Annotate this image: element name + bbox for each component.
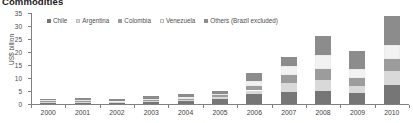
bar-segment <box>109 101 125 102</box>
bar-group[interactable] <box>281 57 297 104</box>
x-tick-mark <box>237 105 238 108</box>
bar-segment <box>349 69 365 78</box>
bar-segment <box>246 91 262 94</box>
x-tick-label: 2005 <box>206 109 234 117</box>
x-tick-mark-origin <box>31 105 32 108</box>
x-tick-mark <box>65 105 66 108</box>
bar-segment <box>109 99 125 101</box>
y-tick-label: 5 <box>0 88 22 95</box>
bar-segment <box>40 103 56 104</box>
bar-segment <box>212 97 228 99</box>
chart-title: Commodities <box>2 0 63 5</box>
bar-segment <box>178 94 194 98</box>
x-tick-label: 2008 <box>309 109 337 117</box>
y-tick-label: 20 <box>0 49 22 56</box>
bar-segment <box>384 85 400 104</box>
bar-segment <box>315 91 331 104</box>
bar-segment <box>384 45 400 59</box>
bar-segment <box>40 102 56 103</box>
bar-segment <box>143 96 159 99</box>
x-tick-mark <box>134 105 135 108</box>
bar-segment <box>281 66 297 74</box>
x-tick-mark <box>100 105 101 108</box>
x-tick-mark <box>409 105 410 108</box>
bars-layer <box>31 13 409 104</box>
x-axis-line <box>31 104 409 105</box>
bar-group[interactable] <box>349 51 365 104</box>
bar-segment <box>281 75 297 83</box>
bar-group[interactable] <box>40 99 56 104</box>
bar-segment <box>109 101 125 102</box>
bar-segment <box>212 94 228 95</box>
bar-segment <box>281 83 297 92</box>
x-tick-mark <box>168 105 169 108</box>
bar-segment <box>246 73 262 82</box>
bar-segment <box>349 86 365 93</box>
x-tick-label: 2003 <box>137 109 165 117</box>
bar-segment <box>109 103 125 104</box>
bar-segment <box>281 92 297 104</box>
bar-segment <box>75 102 91 103</box>
bar-group[interactable] <box>384 16 400 104</box>
x-tick-label: 2007 <box>275 109 303 117</box>
bar-segment <box>246 94 262 104</box>
bar-segment <box>281 57 297 66</box>
bar-segment <box>246 81 262 86</box>
x-tick-mark <box>272 105 273 108</box>
y-tick-label: 25 <box>0 36 22 43</box>
y-tick-label: 15 <box>0 62 22 69</box>
bar-segment <box>246 86 262 90</box>
bar-segment <box>384 71 400 86</box>
bar-segment <box>40 101 56 102</box>
bar-segment <box>315 36 331 54</box>
bar-segment <box>40 99 56 101</box>
bar-segment <box>178 101 194 104</box>
bar-segment <box>315 69 331 80</box>
x-tick-label: 2010 <box>378 109 406 117</box>
bar-segment <box>349 51 365 70</box>
x-tick-mark <box>306 105 307 108</box>
bar-segment <box>178 99 194 101</box>
bar-segment <box>212 99 228 104</box>
bar-segment <box>212 91 228 94</box>
bar-segment <box>384 16 400 45</box>
bar-segment <box>109 102 125 103</box>
x-tick-label: 2000 <box>34 109 62 117</box>
bar-group[interactable] <box>75 98 91 105</box>
x-tick-label: 2004 <box>172 109 200 117</box>
bar-segment <box>349 78 365 86</box>
y-tick-label: 35 <box>0 10 22 17</box>
bar-group[interactable] <box>246 73 262 104</box>
bar-segment <box>75 100 91 101</box>
x-tick-label: 2002 <box>103 109 131 117</box>
x-tick-mark <box>375 105 376 108</box>
bar-segment <box>178 100 194 101</box>
bar-group[interactable] <box>315 36 331 104</box>
bar-segment <box>75 98 91 100</box>
bar-segment <box>384 59 400 71</box>
bar-segment <box>143 100 159 101</box>
bar-segment <box>349 93 365 104</box>
bar-segment <box>75 103 91 104</box>
x-tick-label: 2001 <box>69 109 97 117</box>
bar-segment <box>75 101 91 102</box>
x-tick-mark <box>203 105 204 108</box>
bar-segment <box>212 95 228 97</box>
bar-segment <box>315 55 331 69</box>
x-tick-mark <box>340 105 341 108</box>
bar-segment <box>178 97 194 98</box>
bar-group[interactable] <box>143 96 159 104</box>
bar-group[interactable] <box>109 99 125 104</box>
y-tick-label: 30 <box>0 23 22 30</box>
bar-group[interactable] <box>212 91 228 104</box>
bar-segment <box>315 80 331 91</box>
bar-group[interactable] <box>178 94 194 104</box>
bar-segment <box>143 102 159 104</box>
y-tick-label: 10 <box>0 75 22 82</box>
x-tick-label: 2006 <box>240 109 268 117</box>
bar-segment <box>143 99 159 100</box>
x-tick-label: 2009 <box>343 109 371 117</box>
commodities-stacked-bar-chart: Commodities ChileArgentinaColombiaVenezu… <box>0 0 413 123</box>
bar-segment <box>143 101 159 102</box>
y-tick-label: 0 <box>0 101 22 108</box>
